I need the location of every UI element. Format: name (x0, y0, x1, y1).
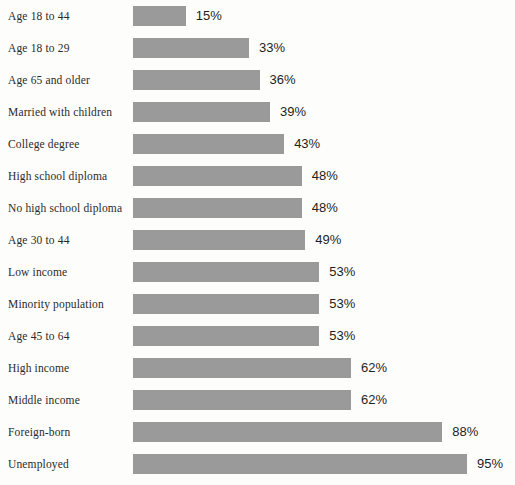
bar-category-label: Low income (8, 256, 67, 288)
bar-row: Age 45 to 6453% (0, 320, 515, 352)
bar-fill (133, 422, 442, 442)
bar-row: College degree43% (0, 128, 515, 160)
bar-value-label: 48% (312, 198, 338, 218)
bar-track: 53% (133, 288, 515, 320)
bar-track: 88% (133, 416, 515, 448)
horizontal-bar-chart: Age 18 to 4415%Age 18 to 2933%Age 65 and… (0, 0, 515, 485)
bar-value-label: 39% (280, 102, 306, 122)
bar-track: 49% (133, 224, 515, 256)
bar-fill (133, 294, 319, 314)
bar-row: Age 65 and older36% (0, 64, 515, 96)
bar-row: High school diploma48% (0, 160, 515, 192)
bar-category-label: Age 45 to 64 (8, 320, 70, 352)
bar-row: Minority population53% (0, 288, 515, 320)
bar-fill (133, 6, 186, 26)
bar-fill (133, 326, 319, 346)
bar-row: Middle income62% (0, 384, 515, 416)
bar-track: 15% (133, 0, 515, 32)
bar-fill (133, 102, 270, 122)
bar-value-label: 43% (294, 134, 320, 154)
bar-category-label: Minority population (8, 288, 104, 320)
bar-row: Foreign-born88% (0, 416, 515, 448)
bar-category-label: Married with children (8, 96, 112, 128)
bar-track: 36% (133, 64, 515, 96)
bar-row: Married with children39% (0, 96, 515, 128)
bar-fill (133, 358, 351, 378)
bar-value-label: 15% (196, 6, 222, 26)
bar-row: Low income53% (0, 256, 515, 288)
bar-value-label: 33% (259, 38, 285, 58)
bar-value-label: 62% (361, 358, 387, 378)
bar-value-label: 62% (361, 390, 387, 410)
bar-track: 48% (133, 192, 515, 224)
bar-row: No high school diploma48% (0, 192, 515, 224)
bar-value-label: 36% (270, 70, 296, 90)
bar-track: 33% (133, 32, 515, 64)
bar-value-label: 49% (315, 230, 341, 250)
bar-category-label: Foreign-born (8, 416, 70, 448)
bar-track: 48% (133, 160, 515, 192)
bar-fill (133, 230, 305, 250)
bar-value-label: 95% (477, 454, 503, 474)
bar-category-label: High income (8, 352, 69, 384)
bar-category-label: Unemployed (8, 448, 69, 480)
bar-value-label: 48% (312, 166, 338, 186)
bar-category-label: Age 18 to 29 (8, 32, 70, 64)
bar-fill (133, 198, 302, 218)
bar-fill (133, 166, 302, 186)
bar-fill (133, 454, 467, 474)
bar-category-label: No high school diploma (8, 192, 122, 224)
bar-category-label: Age 30 to 44 (8, 224, 70, 256)
bar-track: 95% (133, 448, 515, 480)
bar-value-label: 88% (452, 422, 478, 442)
bar-row: Unemployed95% (0, 448, 515, 480)
bar-category-label: Age 65 and older (8, 64, 90, 96)
bar-fill (133, 38, 249, 58)
bar-row: Age 18 to 4415% (0, 0, 515, 32)
bar-row: High income62% (0, 352, 515, 384)
bar-track: 53% (133, 256, 515, 288)
bar-rows: Age 18 to 4415%Age 18 to 2933%Age 65 and… (0, 0, 515, 480)
bar-fill (133, 134, 284, 154)
bar-category-label: High school diploma (8, 160, 107, 192)
bar-track: 53% (133, 320, 515, 352)
bar-fill (133, 262, 319, 282)
bar-fill (133, 390, 351, 410)
bar-fill (133, 70, 260, 90)
bar-category-label: Age 18 to 44 (8, 0, 70, 32)
bar-value-label: 53% (329, 326, 355, 346)
bar-track: 62% (133, 352, 515, 384)
bar-category-label: Middle income (8, 384, 80, 416)
bar-value-label: 53% (329, 262, 355, 282)
bar-row: Age 18 to 2933% (0, 32, 515, 64)
bar-track: 62% (133, 384, 515, 416)
bar-category-label: College degree (8, 128, 79, 160)
bar-row: Age 30 to 4449% (0, 224, 515, 256)
bar-track: 43% (133, 128, 515, 160)
bar-value-label: 53% (329, 294, 355, 314)
bar-track: 39% (133, 96, 515, 128)
